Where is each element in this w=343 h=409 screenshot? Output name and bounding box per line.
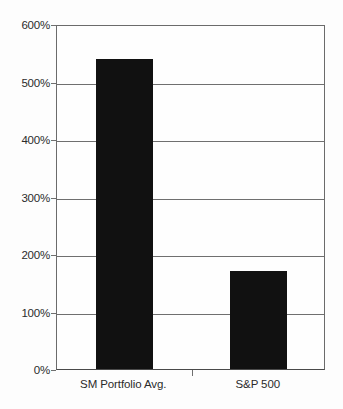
- x-axis-tick-label: SM Portfolio Avg.: [80, 378, 166, 390]
- y-axis-tick-label: 300%: [21, 192, 50, 204]
- y-axis-tick-label: 200%: [21, 249, 50, 261]
- x-axis-mid-tick: [192, 370, 193, 376]
- y-axis-tick-label: 400%: [21, 134, 50, 146]
- y-axis-tick-label: 0%: [34, 364, 50, 376]
- y-axis-tick-label: 100%: [21, 307, 50, 319]
- bar-chart: 600%500%400%300%200%100%0% SM Portfolio …: [0, 0, 343, 409]
- x-axis-tick-label: S&P 500: [236, 378, 281, 390]
- bar: [96, 59, 153, 370]
- plot-area: [56, 25, 325, 370]
- y-axis-tick-mark: [51, 370, 56, 371]
- y-axis-tick-label: 500%: [21, 77, 50, 89]
- y-axis: 600%500%400%300%200%100%0%: [0, 0, 50, 409]
- bar: [230, 271, 287, 369]
- y-axis-tick-label: 600%: [21, 19, 50, 31]
